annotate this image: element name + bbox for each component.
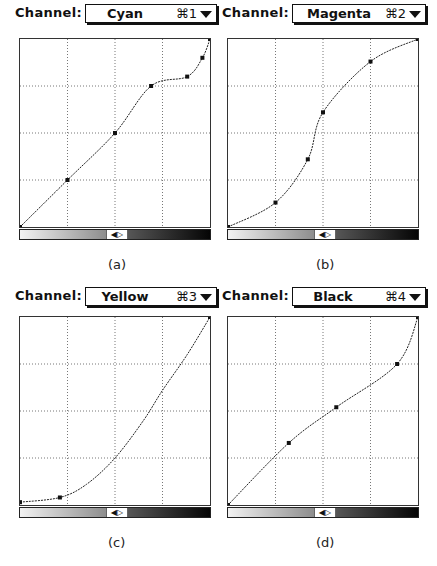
curves-panel-yellow: Channel: Yellow ⌘3 ◀▷ (c) — [0, 283, 218, 566]
dropdown-arrow-icon — [200, 11, 212, 18]
tone-scroller-icon[interactable]: ◀▷ — [314, 230, 336, 239]
curve-chart — [20, 39, 210, 227]
channel-label: Channel: — [15, 5, 82, 20]
tone-bar: ◀▷ — [19, 507, 211, 518]
channel-name: Yellow — [86, 289, 164, 304]
curves-panel-black: Channel: Black ⌘4 ◀▷ (d) — [218, 283, 436, 566]
shortcut: ⌘4 — [385, 289, 406, 304]
tone-bar: ◀▷ — [227, 229, 419, 240]
channel-label: Channel: — [15, 288, 82, 303]
shortcut: ⌘2 — [385, 6, 406, 21]
dropdown-arrow-icon — [200, 294, 212, 301]
channel-label: Channel: — [222, 288, 289, 303]
curve-graph-cyan[interactable] — [19, 38, 211, 228]
channel-name: Magenta — [293, 6, 385, 21]
dropdown-arrow-icon — [409, 294, 421, 301]
curve-chart — [20, 317, 210, 505]
channel-popup-cyan[interactable]: Cyan ⌘1 — [85, 4, 217, 23]
curves-panel-magenta: Channel: Magenta ⌘2 ◀▷ (b) — [218, 0, 436, 283]
tone-scroller-icon[interactable]: ◀▷ — [106, 230, 128, 239]
channel-name: Black — [293, 289, 373, 304]
curve-graph-yellow[interactable] — [19, 316, 211, 506]
tone-bar: ◀▷ — [19, 229, 211, 240]
tone-scroller-icon[interactable]: ◀▷ — [106, 508, 128, 517]
curves-panel-cyan: Channel: Cyan ⌘1 ◀▷ (a) — [0, 0, 218, 283]
caption: (a) — [108, 257, 126, 272]
curve-chart — [228, 39, 418, 227]
channel-name: Cyan — [86, 6, 164, 21]
dropdown-arrow-icon — [409, 11, 421, 18]
tone-scroller-icon[interactable]: ◀▷ — [314, 508, 336, 517]
caption: (c) — [108, 535, 125, 550]
channel-popup-yellow[interactable]: Yellow ⌘3 — [85, 287, 217, 306]
shortcut: ⌘1 — [176, 6, 197, 21]
channel-label: Channel: — [222, 5, 289, 20]
caption: (d) — [316, 535, 334, 550]
channel-popup-magenta[interactable]: Magenta ⌘2 — [292, 4, 426, 23]
shortcut: ⌘3 — [176, 289, 197, 304]
curve-graph-magenta[interactable] — [227, 38, 419, 228]
tone-bar: ◀▷ — [227, 507, 419, 518]
curve-graph-black[interactable] — [227, 316, 419, 506]
channel-popup-black[interactable]: Black ⌘4 — [292, 287, 426, 306]
curve-chart — [228, 317, 418, 505]
caption: (b) — [316, 257, 334, 272]
